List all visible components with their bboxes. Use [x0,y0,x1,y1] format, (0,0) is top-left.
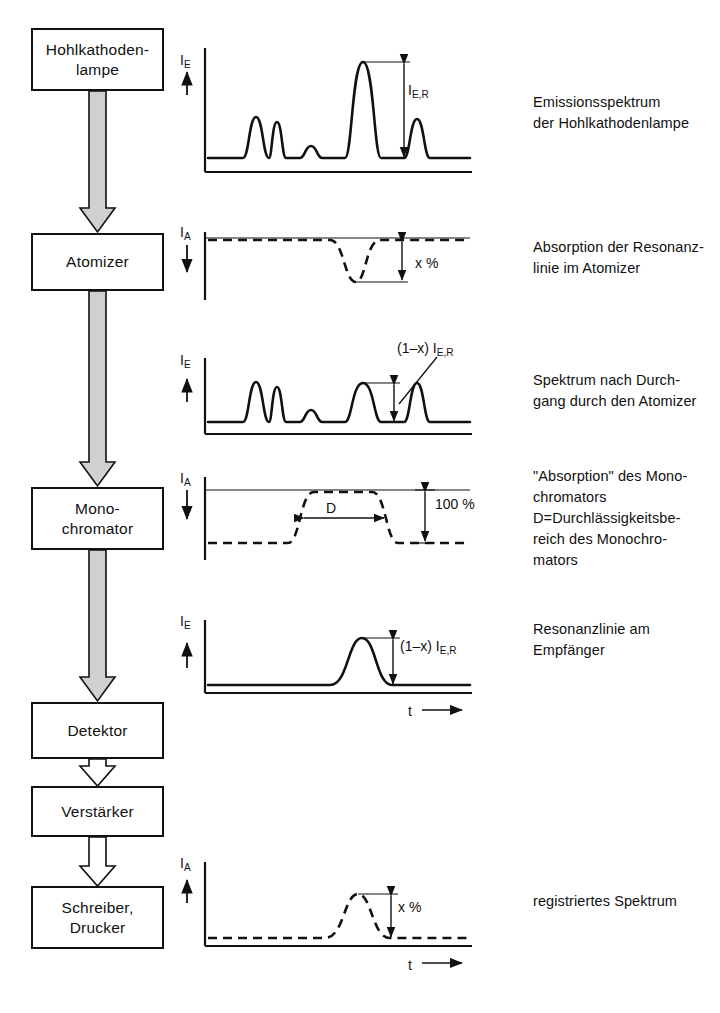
diagram-graphics [0,0,720,1013]
registered-signal-curve [208,894,470,938]
chart-emission-lamp [187,48,472,172]
flow-arrow-monochromator-to-detektor [80,550,115,701]
chart-resonance-at-detector [187,620,472,710]
chart-monochromator-passband [187,477,470,560]
attenuated-spectrum-curve [208,382,470,422]
chart-spectrum-after-atomizer [187,357,472,434]
flow-arrow-lamp-to-atomizer [80,91,115,232]
flow-arrow-atomizer-to-monochromator [80,291,115,486]
emission-spectrum-curve [208,62,470,158]
absorption-dip-curve [208,240,470,282]
resonance-peak-curve [208,638,470,685]
chart-registered-spectrum [187,862,472,963]
diagram-page: Hohlkathoden- lampe Atomizer Mono- chrom… [0,0,720,1013]
flow-arrow-detektor-to-verstaerker [80,759,115,786]
flow-arrow-verstaerker-to-schreiber [80,837,115,886]
chart-atomizer-absorption [187,232,470,300]
